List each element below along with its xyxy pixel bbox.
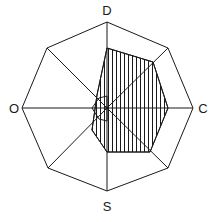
center-point <box>105 106 108 109</box>
octagon-radial-diagram: D C S O <box>0 0 218 222</box>
vertex-label-s: S <box>103 199 112 214</box>
vertex-label-o: O <box>9 101 19 116</box>
vertex-label-c: C <box>198 101 207 116</box>
vertex-label-d: D <box>102 3 111 18</box>
diagram-container: D C S O <box>0 0 218 222</box>
